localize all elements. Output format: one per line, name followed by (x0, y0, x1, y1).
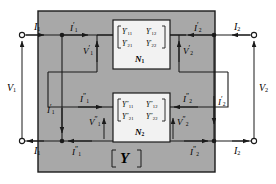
matrix-N1-r2c1: Y′21 (122, 39, 132, 49)
label-V2: V2 (259, 83, 268, 93)
figure-root: I1 I1 I2 I2 V1 V2 I′1 I′2 V′1 V′2 I′1 I′… (0, 0, 276, 184)
label-Ipp2-mid: I″2 (183, 93, 192, 104)
label-Vpp2: V″2 (177, 116, 188, 127)
label-Ip2-top: I′2 (194, 22, 201, 33)
label-Vp2: V′2 (183, 45, 193, 56)
subnetwork-N1-label: N1 (135, 55, 144, 65)
terminal-right-bottom (251, 138, 256, 143)
label-I1-bottom: I1 (34, 146, 40, 156)
terminal-left-top (19, 32, 24, 37)
label-Ip1-branch: I′1 (47, 104, 54, 115)
label-I2-top: I2 (234, 22, 240, 32)
matrix-N1-r1c1: Y′11 (122, 27, 132, 37)
matrix-N2-r2c2: Y″22 (146, 112, 157, 122)
matrix-N1-r2c2: Y′22 (146, 39, 156, 49)
label-Vpp1: V″1 (89, 116, 100, 127)
matrix-N2-r1c1: Y″11 (122, 100, 133, 110)
label-Ipp1-bottom: I″1 (72, 146, 81, 157)
node-bottom-right (212, 139, 217, 144)
label-Ip1-top: I′1 (70, 22, 77, 33)
label-Ipp1-mid: I″1 (80, 93, 89, 104)
subnetwork-N2-label: N2 (135, 128, 144, 138)
matrix-N2-r2c1: Y″21 (122, 112, 133, 122)
matrix-N2-r1c2: Y″12 (146, 100, 157, 110)
matrix-N1-r1c2: Y′12 (146, 27, 156, 37)
outer-block-label: Y (120, 151, 129, 166)
label-Vp1: V′1 (83, 45, 93, 56)
label-V1: V1 (7, 83, 16, 93)
label-Ipp2-bottom: I″2 (190, 146, 199, 157)
terminal-right-top (251, 32, 256, 37)
label-Ip2-branch: I′2 (218, 96, 225, 107)
label-I1-top: I1 (34, 22, 40, 32)
terminal-left-bottom (19, 138, 24, 143)
node-bottom-left (60, 139, 65, 144)
label-I2-bottom: I2 (234, 146, 240, 156)
node-top-left (60, 33, 65, 38)
node-top-right (212, 33, 217, 38)
